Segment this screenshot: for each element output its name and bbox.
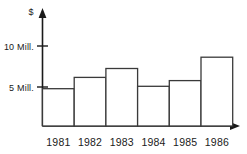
bar-1983[interactable] [106,69,138,127]
bar-chart: $ 10 Mill. 5 Mill. 1981 1982 1983 1984 1… [0,0,247,154]
bar-1985[interactable] [169,81,201,126]
y-tick-label-10mill: 10 Mill. [4,42,34,52]
x-tick-label-1984: 1984 [141,136,165,148]
bar-1982[interactable] [74,77,106,126]
bar-chart-screenshot: $ 10 Mill. 5 Mill. 1981 1982 1983 1984 1… [0,0,247,154]
bar-1986[interactable] [201,57,233,126]
x-tick-label-1986: 1986 [205,136,229,148]
x-tick-label-1985: 1985 [173,136,197,148]
x-tick-label-1982: 1982 [78,136,102,148]
y-axis-arrow-icon [39,8,47,18]
bar-1984[interactable] [138,86,170,126]
y-tick-label-5mill: 5 Mill. [9,83,34,93]
bar-1981[interactable] [43,89,75,126]
y-axis-unit-label: $ [28,7,33,17]
x-tick-label-1981: 1981 [46,136,70,148]
x-tick-label-1983: 1983 [110,136,134,148]
